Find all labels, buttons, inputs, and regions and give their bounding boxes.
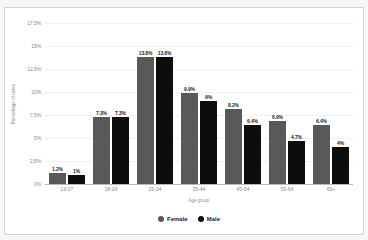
y-axis-tick-label: 10% bbox=[31, 89, 41, 95]
y-axis-tick-labels: 0%2.5%5%7.5%10%12.5%15%17.5% bbox=[5, 23, 45, 184]
x-axis-tick-label: 18-24 bbox=[89, 186, 133, 192]
x-axis-title: Age group bbox=[45, 198, 353, 203]
legend-label: Female bbox=[167, 216, 188, 222]
bar-slot: 8.2% bbox=[225, 23, 242, 184]
y-axis-tick-label: 15% bbox=[31, 43, 41, 49]
bar-value-label: 9.9% bbox=[184, 86, 195, 92]
circle-marker-female-icon bbox=[158, 216, 164, 222]
bar-value-label: 6.4% bbox=[316, 118, 327, 124]
bar-slot: 7.3% bbox=[112, 23, 129, 184]
chart-page: Percentage of users 0%2.5%5%7.5%10%12.5%… bbox=[0, 0, 368, 240]
bar-slot: 4.7% bbox=[288, 23, 305, 184]
bar-slot: 6.4% bbox=[313, 23, 330, 184]
bar-value-label: 9% bbox=[205, 94, 212, 100]
chart-frame: Percentage of users 0%2.5%5%7.5%10%12.5%… bbox=[4, 7, 364, 235]
legend-label: Male bbox=[207, 216, 220, 222]
bar-male[interactable]: 4% bbox=[332, 147, 349, 184]
bar-group: 1.2%1% bbox=[45, 23, 89, 184]
bar-slot: 9.9% bbox=[181, 23, 198, 184]
bar-value-label: 1.2% bbox=[52, 166, 63, 172]
bar-slot: 6.4% bbox=[244, 23, 261, 184]
bar-female[interactable]: 1.2% bbox=[49, 173, 66, 184]
bar-female[interactable]: 7.3% bbox=[93, 117, 110, 184]
bar-value-label: 1% bbox=[73, 168, 80, 174]
bar-female[interactable]: 9.9% bbox=[181, 93, 198, 184]
circle-marker-male-icon bbox=[198, 216, 204, 222]
bar-groups: 1.2%1%7.3%7.3%13.8%13.8%9.9%9%8.2%6.4%6.… bbox=[45, 23, 353, 184]
bar-value-label: 4% bbox=[337, 140, 344, 146]
bar-value-label: 6.9% bbox=[272, 114, 283, 120]
bar-slot: 6.9% bbox=[269, 23, 286, 184]
bar-male[interactable]: 1% bbox=[68, 175, 85, 184]
bar-slot: 7.3% bbox=[93, 23, 110, 184]
legend-item-female[interactable]: Female bbox=[158, 216, 188, 222]
bar-value-label: 6.4% bbox=[247, 118, 258, 124]
x-axis-tick-label: 65+ bbox=[309, 186, 353, 192]
bar-value-label: 13.8% bbox=[158, 50, 171, 56]
y-axis-tick-label: 7.5% bbox=[30, 112, 41, 118]
bar-male[interactable]: 6.4% bbox=[244, 125, 261, 184]
bar-value-label: 13.8% bbox=[139, 50, 152, 56]
x-axis-tick-label: 13-17 bbox=[45, 186, 89, 192]
bar-group: 6.9%4.7% bbox=[265, 23, 309, 184]
bar-female[interactable]: 6.9% bbox=[269, 121, 286, 184]
bar-group: 8.2%6.4% bbox=[221, 23, 265, 184]
bar-group: 13.8%13.8% bbox=[133, 23, 177, 184]
bar-value-label: 7.3% bbox=[96, 110, 107, 116]
x-axis-tick-label: 55-64 bbox=[265, 186, 309, 192]
bar-value-label: 7.3% bbox=[115, 110, 126, 116]
bar-slot: 9% bbox=[200, 23, 217, 184]
y-axis-tick-label: 5% bbox=[34, 135, 41, 141]
bar-slot: 4% bbox=[332, 23, 349, 184]
bar-group: 7.3%7.3% bbox=[89, 23, 133, 184]
bar-group: 6.4%4% bbox=[309, 23, 353, 184]
bar-female[interactable]: 6.4% bbox=[313, 125, 330, 184]
bar-male[interactable]: 9% bbox=[200, 101, 217, 184]
bar-female[interactable]: 13.8% bbox=[137, 57, 154, 184]
bar-slot: 1.2% bbox=[49, 23, 66, 184]
bar-value-label: 8.2% bbox=[228, 102, 239, 108]
bar-male[interactable]: 13.8% bbox=[156, 57, 173, 184]
x-axis-tick-label: 25-34 bbox=[133, 186, 177, 192]
x-axis-tick-label: 45-54 bbox=[221, 186, 265, 192]
bar-male[interactable]: 7.3% bbox=[112, 117, 129, 184]
gridline bbox=[45, 184, 353, 185]
chart-legend: FemaleMale bbox=[5, 216, 368, 222]
bar-group: 9.9%9% bbox=[177, 23, 221, 184]
y-axis-tick-label: 12.5% bbox=[27, 66, 41, 72]
y-axis-tick-label: 17.5% bbox=[27, 20, 41, 26]
bar-female[interactable]: 8.2% bbox=[225, 109, 242, 184]
y-axis-tick-label: 2.5% bbox=[30, 158, 41, 164]
bar-male[interactable]: 4.7% bbox=[288, 141, 305, 184]
bar-slot: 13.8% bbox=[156, 23, 173, 184]
y-axis-tick-label: 0% bbox=[34, 181, 41, 187]
bar-value-label: 4.7% bbox=[291, 134, 302, 140]
x-axis-tick-labels: 13-1718-2425-3435-4445-5455-6465+ bbox=[45, 186, 353, 192]
bar-slot: 1% bbox=[68, 23, 85, 184]
bar-slot: 13.8% bbox=[137, 23, 154, 184]
plot-area: 1.2%1%7.3%7.3%13.8%13.8%9.9%9%8.2%6.4%6.… bbox=[45, 23, 353, 184]
x-axis-tick-label: 35-44 bbox=[177, 186, 221, 192]
legend-item-male[interactable]: Male bbox=[198, 216, 220, 222]
